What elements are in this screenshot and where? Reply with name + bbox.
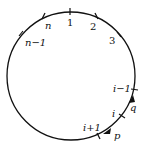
label-1: 1 <box>67 17 73 28</box>
label-n-minus-1: n−1 <box>25 37 46 48</box>
tick-marks <box>19 8 138 139</box>
label-3: 3 <box>109 35 115 46</box>
label-n: n <box>45 20 51 31</box>
label-i-minus-1: i−1 <box>113 83 131 94</box>
tick-2 <box>95 13 98 19</box>
circle <box>7 12 135 140</box>
tick-i-minus-1 <box>131 89 138 90</box>
circle-diagram: 1 2 3 n n−1 i−1 i i+1 q p <box>0 0 147 156</box>
label-i: i <box>112 108 115 119</box>
label-2: 2 <box>90 21 96 32</box>
label-p: p <box>114 130 121 141</box>
label-i-plus-1: i+1 <box>83 122 101 133</box>
label-q: q <box>130 102 136 113</box>
